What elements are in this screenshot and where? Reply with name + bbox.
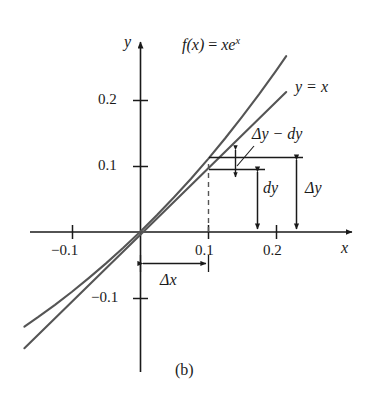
figure-caption: (b) bbox=[175, 362, 194, 378]
curve-label-f-base: xe bbox=[221, 36, 235, 53]
curve-label-f-exponent: x bbox=[235, 35, 240, 46]
y-tick-label-0.1: 0.1 bbox=[98, 158, 117, 173]
curves-group bbox=[24, 56, 286, 348]
figure-container: y x 0.2 0.1 −0.1 −0.1 0.1 0.2 f(x) = xex… bbox=[0, 0, 376, 402]
x-axis-label: x bbox=[341, 240, 348, 256]
curve-label-y-equals-x: y = x bbox=[295, 79, 328, 95]
annotation-delta-y-minus-dy: Δy − dy bbox=[252, 126, 302, 142]
x-tick-label-0.2: 0.2 bbox=[263, 243, 282, 258]
delta-y-minus-dy-pointer bbox=[237, 146, 254, 166]
y-tick-label-0.2: 0.2 bbox=[98, 92, 117, 107]
annotation-dy: dy bbox=[263, 180, 278, 196]
x-tick-label-0.1: 0.1 bbox=[195, 243, 214, 258]
plot-svg bbox=[0, 0, 376, 402]
curve-f-of-x bbox=[24, 56, 286, 327]
curve-label-f-eq: = bbox=[204, 36, 221, 53]
curve-label-f-lhs: f(x) bbox=[182, 36, 204, 53]
x-tick-label--0.1: −0.1 bbox=[51, 243, 78, 258]
annotation-delta-x: Δx bbox=[160, 272, 177, 288]
line-y-equals-x bbox=[24, 92, 286, 348]
annotation-delta-y: Δy bbox=[305, 180, 322, 196]
curve-label-f-of-x: f(x) = xex bbox=[182, 36, 240, 53]
y-axis-label: y bbox=[124, 34, 131, 50]
leader-lines-group bbox=[209, 158, 303, 170]
y-tick-label--0.1: −0.1 bbox=[91, 290, 118, 305]
